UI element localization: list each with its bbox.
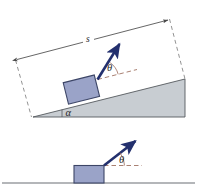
displacement-label: s: [86, 34, 90, 44]
theta-label-incline: θ: [107, 62, 112, 73]
dimension-extension-right: [170, 19, 186, 79]
inclined-plane-panel: θ α s: [16, 19, 186, 118]
figure-canvas: θ α s θ: [0, 0, 197, 191]
theta-label-ground: θ: [119, 154, 124, 165]
alpha-label: α: [66, 107, 72, 118]
physics-figure: θ α s θ: [0, 0, 197, 191]
horizontal-ground-panel: θ: [2, 141, 195, 183]
block-on-incline: [63, 75, 99, 104]
dimension-extension-left: [16, 60, 32, 117]
block-on-ground: [74, 166, 104, 184]
incline-surface: [33, 79, 185, 117]
